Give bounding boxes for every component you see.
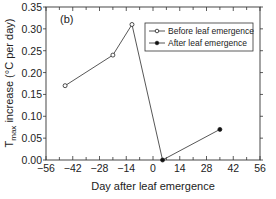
y-tick-label: 0.30 <box>22 23 43 35</box>
open-circle-marker <box>111 53 115 57</box>
y-tick-label: 0.00 <box>22 154 43 166</box>
y-tick-label: 0.15 <box>22 88 43 100</box>
legend: Before leaf emergenceAfter leaf emergenc… <box>145 23 254 51</box>
legend-label: Before leaf emergence <box>168 26 254 36</box>
x-tick-label: 56 <box>254 162 266 174</box>
x-tick-label: 0 <box>150 162 156 174</box>
series-line <box>65 24 132 85</box>
series-line <box>163 129 220 160</box>
filled-circle-marker <box>161 158 165 162</box>
filled-circle-marker <box>218 127 222 131</box>
panel-label: (b) <box>60 13 73 25</box>
open-circle-marker <box>130 22 134 26</box>
y-tick-label: 0.20 <box>22 67 43 79</box>
open-circle-icon <box>155 29 159 33</box>
y-tick-label: 0.35 <box>22 1 43 13</box>
open-circle-marker <box>63 84 67 88</box>
filled-circle-icon <box>155 41 159 45</box>
y-tick-label: 0.05 <box>22 132 43 144</box>
chart: −56−42−28−140142842560.000.050.100.150.2… <box>0 0 276 199</box>
x-tick-label: 28 <box>201 162 213 174</box>
x-tick-label: −42 <box>64 162 82 174</box>
x-tick-label: −14 <box>117 162 135 174</box>
legend-label: After leaf emergence <box>168 38 247 48</box>
x-tick-label: −28 <box>91 162 109 174</box>
y-tick-label: 0.10 <box>22 110 43 122</box>
y-axis-label: Tmax increase (°C per day) <box>3 19 18 148</box>
x-axis-label: Day after leaf emergence <box>91 180 215 192</box>
x-tick-label: 14 <box>174 162 186 174</box>
y-tick-label: 0.25 <box>22 45 43 57</box>
x-tick-label: 42 <box>227 162 239 174</box>
